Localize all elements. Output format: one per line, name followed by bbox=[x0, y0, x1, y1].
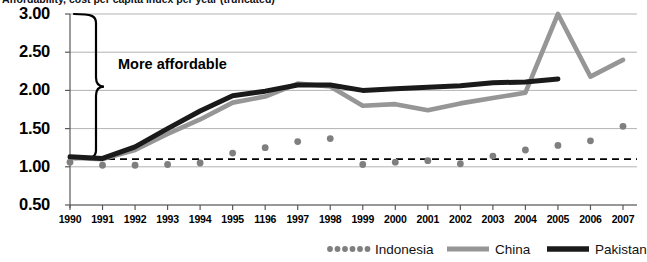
y-tick-label: 1.00 bbox=[2, 157, 50, 176]
x-tick-label: 1999 bbox=[351, 213, 374, 225]
x-tick-label: 2003 bbox=[482, 213, 505, 225]
x-tick-label: 2002 bbox=[449, 213, 472, 225]
chart-legend: IndonesiaChinaPakistan bbox=[0, 236, 637, 262]
y-tick-label: 1.50 bbox=[2, 119, 50, 138]
legend-item-indonesia[interactable]: Indonesia bbox=[325, 236, 434, 262]
y-tick-label: 2.50 bbox=[2, 42, 50, 61]
legend-swatch-china bbox=[445, 242, 491, 256]
legend-swatch-indonesia bbox=[325, 242, 371, 256]
data-series-layer bbox=[67, 14, 627, 169]
legend-label-pakistan: Pakistan bbox=[595, 242, 647, 257]
x-tick-label: 1990 bbox=[59, 213, 82, 225]
x-tick-label: 1997 bbox=[286, 213, 309, 225]
y-tick-label: 2.00 bbox=[2, 80, 50, 99]
x-tick-label: 1992 bbox=[124, 213, 147, 225]
x-tick-label: 2005 bbox=[547, 213, 570, 225]
x-tick-label: 2007 bbox=[612, 213, 635, 225]
x-tick-label: 2006 bbox=[579, 213, 602, 225]
axis-lines bbox=[65, 14, 637, 208]
x-tick-label: 1993 bbox=[156, 213, 179, 225]
gridlines bbox=[70, 14, 637, 205]
x-tick-label: 2004 bbox=[514, 213, 537, 225]
x-tick-label: 2001 bbox=[417, 213, 440, 225]
x-tick-label: 1991 bbox=[91, 213, 114, 225]
legend-item-pakistan[interactable]: Pakistan bbox=[545, 236, 647, 262]
legend-swatch-pakistan bbox=[545, 242, 591, 256]
legend-item-china[interactable]: China bbox=[445, 236, 530, 262]
x-tick-label: 2000 bbox=[384, 213, 407, 225]
x-tick-label: 1196 bbox=[254, 213, 276, 225]
x-axis-ticks bbox=[70, 205, 623, 210]
more-affordable-brace bbox=[74, 14, 104, 159]
x-tick-label: 1998 bbox=[319, 213, 342, 225]
legend-label-indonesia: Indonesia bbox=[375, 242, 434, 257]
x-tick-label: 1994 bbox=[189, 213, 212, 225]
brace-label: More affordable bbox=[118, 56, 227, 72]
y-tick-label: 0.50 bbox=[2, 195, 50, 214]
legend-label-china: China bbox=[495, 242, 530, 257]
x-tick-label: 1995 bbox=[221, 213, 244, 225]
y-tick-label: 3.00 bbox=[2, 4, 50, 23]
